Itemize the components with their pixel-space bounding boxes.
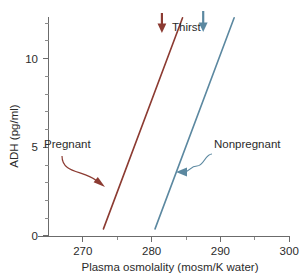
pregnant-line [103, 18, 182, 229]
x-tick-label-270: 270 [73, 245, 92, 257]
series-nonpregnant [155, 18, 234, 229]
y-tick-labels: 10 5 0 [25, 53, 38, 242]
thirst-label: Thirst [172, 21, 202, 33]
y-tick-label-10: 10 [25, 53, 38, 65]
thirst-arrow-pregnant-icon [158, 13, 167, 33]
y-tick-label-0: 0 [32, 230, 38, 242]
y-axis-title: ADH (pg/ml) [8, 104, 20, 167]
nonpregnant-callout-group: Nonpregnant [176, 138, 281, 176]
pregnant-callout-group: Pregnant [44, 138, 105, 187]
x-tick-label-280: 280 [142, 245, 161, 257]
x-axis [38, 237, 290, 243]
pregnant-callout-arrowhead [94, 177, 105, 187]
nonpregnant-line [155, 18, 234, 229]
chart-figure: 10 5 0 270 280 290 300 Plasma osmolality… [0, 0, 304, 277]
y-tick-label-5: 5 [32, 141, 38, 153]
thirst-annotation-group: Thirst [158, 11, 208, 33]
nonpregnant-callout-curve [184, 154, 212, 172]
x-tick-label-290: 290 [211, 245, 230, 257]
thirst-arrow-pregnant-head [158, 24, 167, 34]
x-tick-labels: 270 280 290 300 [73, 245, 299, 257]
y-axis [43, 17, 49, 236]
x-axis-title: Plasma osmolality (mosm/K water) [81, 261, 258, 273]
nonpregnant-label: Nonpregnant [214, 138, 281, 150]
pregnant-callout-curve [62, 156, 97, 181]
chart-svg: 10 5 0 270 280 290 300 Plasma osmolality… [0, 0, 304, 277]
x-tick-label-300: 300 [280, 245, 299, 257]
pregnant-label: Pregnant [44, 138, 91, 150]
series-pregnant [103, 18, 182, 229]
